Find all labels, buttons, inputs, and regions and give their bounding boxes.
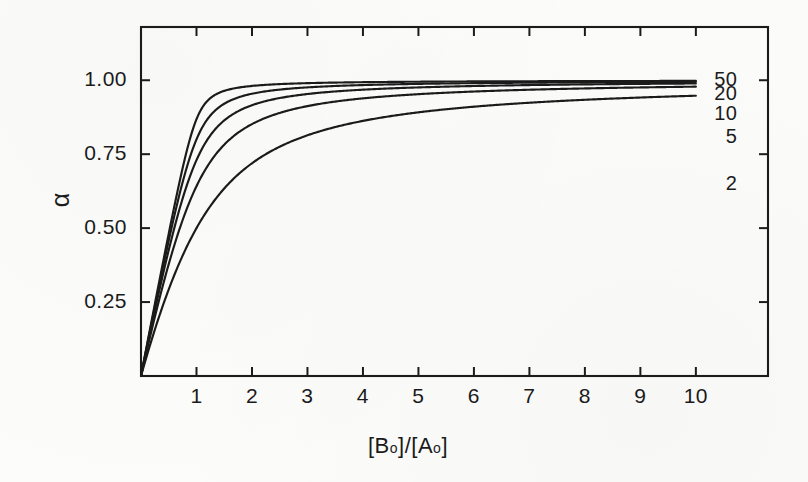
y-tick-label-0.50: 0.50 (84, 215, 127, 238)
series-label-5: 5 (726, 125, 738, 147)
x-tick-label-3: 3 (301, 384, 313, 407)
y-tick-label-0.25: 0.25 (84, 289, 127, 312)
x-axis-ticks (196, 27, 695, 376)
series-label-20: 20 (714, 82, 737, 104)
x-tick-label-4: 4 (357, 384, 369, 407)
y-tick-label-1.00: 1.00 (84, 67, 127, 90)
figure-root: 12345678910 0.250.500.751.00 50201052 [B… (0, 0, 808, 482)
x-axis-title: [Bo]/[Ao] (368, 433, 448, 458)
curve-series-20 (141, 82, 696, 376)
x-tick-label-2: 2 (246, 384, 258, 407)
binding-isotherm-chart: 12345678910 0.250.500.751.00 50201052 [B… (0, 0, 808, 482)
x-title-open-b: [B (368, 433, 390, 458)
curve-series-10 (141, 83, 696, 376)
plot-frame (141, 27, 768, 376)
series-labels-group: 50201052 (714, 68, 737, 194)
x-title-sub-a: o (433, 440, 441, 456)
x-tick-label-5: 5 (412, 384, 424, 407)
y-axis-title-text: α (46, 193, 74, 207)
curve-series-2 (141, 96, 696, 376)
x-title-close-a: ] (441, 433, 448, 458)
x-tick-label-6: 6 (468, 384, 480, 407)
x-tick-label-8: 8 (579, 384, 591, 407)
curve-series-5 (141, 87, 696, 376)
x-title-mid: ]/[A (398, 433, 433, 458)
svg-text:[Bo]/[Ao]: [Bo]/[Ao] (368, 433, 448, 458)
y-axis-tick-labels: 0.250.500.751.00 (84, 67, 127, 312)
x-tick-label-9: 9 (634, 384, 646, 407)
x-axis-tick-labels: 12345678910 (190, 384, 708, 407)
curve-series-group (141, 81, 696, 376)
x-tick-label-10: 10 (684, 384, 708, 407)
x-tick-label-7: 7 (523, 384, 535, 407)
curve-series-50 (141, 81, 696, 376)
y-axis-title: α (46, 193, 74, 207)
series-label-2: 2 (726, 172, 738, 194)
series-label-10: 10 (714, 102, 737, 124)
y-tick-label-0.75: 0.75 (84, 141, 127, 164)
x-title-sub-b: o (390, 440, 398, 456)
x-tick-label-1: 1 (190, 384, 202, 407)
plot-frame-box (141, 27, 768, 376)
